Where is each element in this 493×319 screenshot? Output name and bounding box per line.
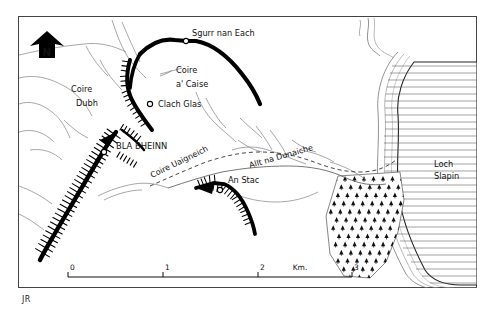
hachure <box>209 176 210 182</box>
map-label-bla-bheinn: BLA BHEINN <box>116 141 167 151</box>
map-label-coire-dubh-1: Coire <box>71 84 92 94</box>
hachure <box>121 81 128 82</box>
map-label-clach-glas: Clach Glas <box>158 99 201 109</box>
map-label-an-stac: An Stac <box>228 175 259 185</box>
map-canvas: Sgurr nan EachCoirea' CaiseClach GlasCoi… <box>0 0 493 319</box>
map-label-coire-a-caise-1: Coire <box>176 65 197 75</box>
map-label-coire-dubh-2: Dubh <box>76 98 98 108</box>
scale-tick-label: 3 <box>354 263 359 272</box>
summit-an-stac <box>217 187 222 192</box>
scale-tick-label: 1 <box>165 263 170 272</box>
summit-sgurr-nan-each <box>183 38 188 43</box>
map-label-loch-slapin-2: Slapin <box>434 171 459 181</box>
scale-unit-label: Km. <box>293 263 308 272</box>
hachure <box>214 175 215 181</box>
hachure <box>121 85 128 86</box>
hachure <box>121 76 128 77</box>
map-label-sgurr-nan-each: Sgurr nan Each <box>192 28 255 38</box>
scale-tick-label: 0 <box>70 263 75 272</box>
summit-bla-bheinn <box>101 149 106 154</box>
scale-tick-label: 2 <box>260 263 265 272</box>
artist-signature: JR <box>21 295 31 304</box>
map-drawing: Sgurr nan EachCoirea' CaiseClach GlasCoi… <box>0 0 493 319</box>
map-label-loch-slapin-1: Loch <box>434 159 453 169</box>
summit-clach-glas <box>147 101 152 106</box>
map-label-coire-a-caise-2: a' Caise <box>176 79 208 89</box>
north-arrow-letter: N <box>43 46 52 58</box>
